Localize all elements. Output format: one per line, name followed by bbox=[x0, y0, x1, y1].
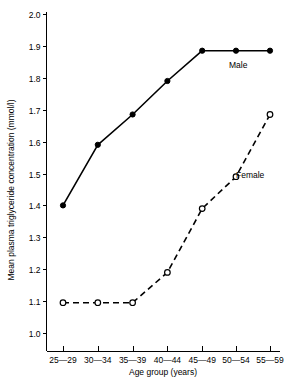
y-tick-label: 1.7 bbox=[29, 106, 41, 116]
data-point-female bbox=[130, 300, 136, 306]
chart-container: 2.01.91.81.71.61.51.41.31.21.11.0 25—293… bbox=[0, 0, 284, 383]
series-label-male: Male bbox=[229, 60, 248, 70]
x-tick-label: 35—39 bbox=[119, 355, 147, 365]
data-point-female bbox=[95, 300, 101, 306]
x-tick-label: 30—34 bbox=[84, 355, 112, 365]
data-point-female bbox=[199, 206, 205, 212]
y-tick-label: 1.9 bbox=[29, 42, 41, 52]
data-point-male bbox=[165, 78, 170, 83]
y-tick-label: 1.5 bbox=[29, 170, 41, 180]
series-markers-male bbox=[60, 48, 272, 208]
data-point-male bbox=[60, 203, 65, 208]
data-point-male bbox=[267, 48, 272, 53]
data-point-male bbox=[95, 142, 100, 147]
y-tick-label: 1.4 bbox=[29, 201, 41, 211]
y-tick-label: 1.0 bbox=[29, 329, 41, 339]
data-point-male bbox=[130, 112, 135, 117]
x-tick-label: 25—29 bbox=[49, 355, 77, 365]
series-markers-female bbox=[60, 112, 273, 306]
y-tick-label: 1.1 bbox=[29, 297, 41, 307]
y-tick-label: 1.8 bbox=[29, 74, 41, 84]
y-tick-label: 2.0 bbox=[29, 10, 41, 20]
series-line-male bbox=[63, 51, 270, 206]
y-tick-label: 1.6 bbox=[29, 138, 41, 148]
y-axis-tick-labels: 2.01.91.81.71.61.51.41.31.21.11.0 bbox=[29, 10, 41, 339]
series-label-female: Female bbox=[236, 170, 265, 180]
data-point-male bbox=[233, 48, 238, 53]
x-tick-label: 50—54 bbox=[222, 355, 250, 365]
y-tick-label: 1.3 bbox=[29, 233, 41, 243]
x-tick-label: 55—59 bbox=[256, 355, 284, 365]
y-axis-ticks bbox=[43, 15, 47, 334]
data-point-female bbox=[267, 112, 273, 118]
x-axis-tick-labels: 25—2930—3435—3940—4445—4950—5455—59 bbox=[49, 355, 284, 365]
data-point-female bbox=[60, 300, 66, 306]
data-point-male bbox=[200, 48, 205, 53]
x-tick-label: 40—44 bbox=[154, 355, 182, 365]
line-chart: 2.01.91.81.71.61.51.41.31.21.11.0 25—293… bbox=[0, 0, 284, 383]
data-point-female bbox=[165, 270, 171, 276]
y-axis-title: Mean plasma triglyceride concentration (… bbox=[6, 99, 16, 280]
x-tick-label: 45—49 bbox=[188, 355, 216, 365]
x-axis-title: Age group (years) bbox=[129, 367, 197, 377]
y-tick-label: 1.2 bbox=[29, 265, 41, 275]
